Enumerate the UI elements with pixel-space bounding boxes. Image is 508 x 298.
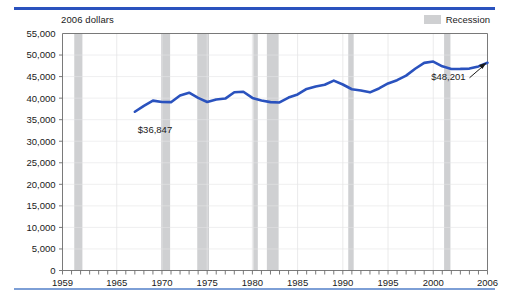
- y-axis-tick-label: 55,000: [26, 28, 55, 39]
- recession-band: [74, 34, 82, 271]
- recession-band: [348, 34, 353, 271]
- x-axis-tick-label: 1985: [287, 277, 308, 288]
- annotation-end-value: $48,201: [431, 71, 465, 82]
- x-axis-ticks: [63, 271, 488, 275]
- y-axis-tick-label: 35,000: [26, 114, 55, 125]
- y-axis-tick-label: 25,000: [26, 157, 55, 168]
- x-axis-tick-label: 2006: [477, 277, 498, 288]
- recession-bands: [74, 34, 450, 271]
- y-axis-tick-label: 10,000: [26, 222, 55, 233]
- series-line: [135, 62, 488, 112]
- plot-area: 05,00010,00015,00020,00025,00030,00035,0…: [0, 0, 508, 298]
- y-axis-tick-label: 50,000: [26, 49, 55, 60]
- chart-svg: 05,00010,00015,00020,00025,00030,00035,0…: [0, 0, 508, 298]
- recession-band: [267, 34, 279, 271]
- y-axis-tick-label: 45,000: [26, 71, 55, 82]
- y-axis-tick-label: 15,000: [26, 200, 55, 211]
- y-axis-ticks: [59, 55, 63, 270]
- x-axis-labels: 1959196519701975198019851990199520002006: [52, 277, 498, 288]
- y-axis-tick-label: 30,000: [26, 136, 55, 147]
- x-axis-tick-label: 1959: [52, 277, 73, 288]
- x-axis-tick-label: 2000: [423, 277, 444, 288]
- x-axis-tick-label: 1980: [242, 277, 263, 288]
- chart-figure: 2006 dollars Recession 05,00010,00015,00…: [0, 0, 508, 298]
- recession-band: [161, 34, 170, 271]
- y-axis-tick-label: 20,000: [26, 179, 55, 190]
- x-axis-tick-label: 1995: [377, 277, 398, 288]
- annotation-start-value: $36,847: [138, 124, 172, 135]
- x-axis-tick-label: 1975: [197, 277, 218, 288]
- y-axis-tick-label: 0: [50, 265, 55, 276]
- x-axis-tick-label: 1970: [151, 277, 172, 288]
- chart-annotations: $36,847$48,201: [138, 63, 487, 135]
- y-axis-tick-label: 40,000: [26, 93, 55, 104]
- y-axis-labels: 05,00010,00015,00020,00025,00030,00035,0…: [26, 28, 55, 276]
- x-axis-tick-label: 1965: [106, 277, 127, 288]
- recession-band: [253, 34, 258, 271]
- y-axis-tick-label: 5,000: [32, 243, 56, 254]
- income-line-series: [135, 62, 488, 112]
- x-axis-tick-label: 1990: [332, 277, 353, 288]
